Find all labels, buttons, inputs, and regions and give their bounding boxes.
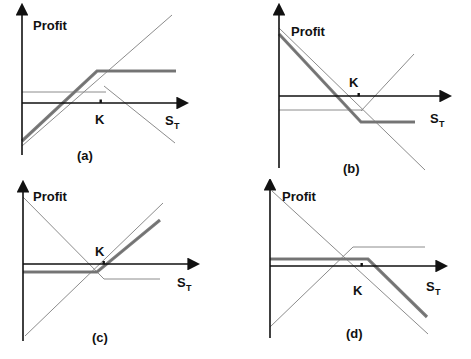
x-axis-label-c: S: [177, 275, 186, 290]
thin-falling-line-d: [272, 191, 428, 334]
caption-d: (d): [346, 326, 363, 341]
caption-b: (b): [343, 161, 360, 176]
caption-a: (a): [77, 148, 93, 163]
profit-diagrams-figure: Profit K S T (a): [0, 0, 471, 359]
x-axis-sublabel-c: T: [186, 283, 192, 293]
y-axis-label-b: Profit: [291, 24, 326, 39]
x-axis-label-d: S: [426, 279, 435, 294]
x-axis-sublabel-b: T: [439, 119, 445, 129]
panel-d: Profit K S T (d): [235, 179, 471, 359]
strike-marker-b: [358, 93, 360, 96]
strike-marker-d: [361, 263, 363, 266]
panel-a: Profit K S T (a): [0, 0, 236, 180]
thick-combined-payoff-a: [22, 71, 176, 141]
thin-falling-line-c: [23, 197, 104, 279]
x-axis-sublabel-d: T: [435, 287, 441, 297]
y-axis-label-a: Profit: [33, 18, 68, 33]
x-axis-label-a: S: [165, 113, 174, 128]
thick-combined-payoff-outline-d: [270, 259, 427, 317]
panel-b: Profit K S T (b): [235, 0, 471, 180]
strike-label-c: K: [95, 244, 105, 259]
x-axis-sublabel-a: T: [174, 121, 180, 131]
strike-label-b: K: [349, 75, 359, 90]
thick-combined-payoff-outline-a: [22, 71, 176, 141]
caption-c: (c): [92, 330, 108, 345]
strike-label-a: K: [95, 112, 105, 127]
panel-c: Profit K S T (c): [0, 179, 236, 359]
y-axis-label-c: Profit: [33, 189, 68, 204]
thick-combined-payoff-d: [270, 259, 427, 317]
strike-label-d: K: [353, 283, 363, 298]
strike-marker-a: [100, 100, 102, 103]
strike-marker-c: [103, 261, 105, 264]
y-axis-label-d: Profit: [282, 189, 317, 204]
thin-rising-line-b: [361, 54, 414, 111]
x-axis-label-b: S: [430, 111, 439, 126]
thin-falling-line-b: [279, 28, 425, 170]
